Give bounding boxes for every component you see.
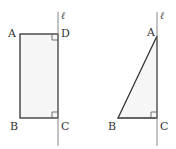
line-label-l-right: ℓ [160, 10, 164, 21]
vertex-label-d-left: D [61, 27, 70, 40]
vertex-label-b-left: B [10, 120, 18, 133]
vertex-label-c-left: C [61, 120, 69, 133]
triangle-abc [118, 36, 157, 118]
diagram-canvas: ℓ A D B C ℓ A B C [0, 0, 176, 149]
rectangle-abcd [20, 34, 58, 118]
vertex-label-b-right: B [108, 120, 116, 133]
rectangle-figure: ℓ A D B C [7, 10, 70, 146]
vertex-label-c-right: C [160, 120, 168, 133]
line-label-l-left: ℓ [61, 10, 65, 21]
triangle-figure: ℓ A B C [108, 10, 168, 146]
vertex-label-a-right: A [146, 26, 156, 39]
vertex-label-a-left: A [7, 27, 17, 40]
